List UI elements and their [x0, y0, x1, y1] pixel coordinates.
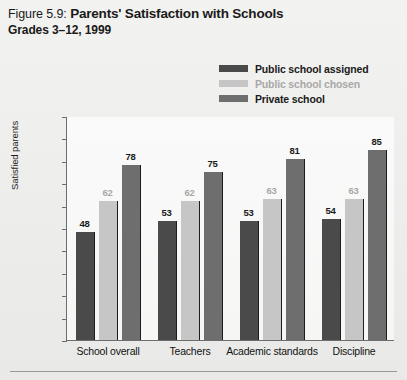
- page-title: Parents' Satisfaction with Schools: [70, 6, 283, 21]
- legend-item-label: Private school: [255, 93, 325, 105]
- x-axis-category-label: Teachers: [169, 345, 210, 357]
- legend-item-private-school: Private school: [219, 92, 399, 105]
- figure-number: Figure 5.9:: [8, 7, 67, 21]
- legend-item-label: Public school chosen: [255, 78, 360, 90]
- figure-title-block: Figure 5.9: Parents' Satisfaction with S…: [8, 6, 403, 38]
- x-axis-category-label: School overall: [76, 345, 139, 357]
- legend-swatch-icon: [219, 95, 248, 102]
- bar: 54: [322, 219, 341, 340]
- bottom-divider: [10, 371, 397, 372]
- bar-value-label: 85: [371, 136, 381, 147]
- bar: 53: [158, 221, 177, 340]
- legend-swatch-icon: [219, 65, 248, 72]
- bar-value-label: 62: [184, 187, 194, 198]
- chart-legend: Public school assigned Public school cho…: [219, 62, 399, 107]
- legend-item-public-school-chosen: Public school chosen: [219, 77, 399, 90]
- y-axis-title: Satisfied parents: [9, 121, 20, 190]
- bar-value-label: 53: [243, 207, 253, 218]
- bar-group: 536275: [149, 117, 231, 340]
- bar-value-label: 54: [325, 205, 335, 216]
- x-axis-category-label: Discipline: [333, 345, 376, 357]
- bar: 63: [263, 199, 282, 340]
- bar-value-label: 62: [102, 187, 112, 198]
- y-axis-tick: [62, 341, 67, 342]
- bar: 75: [204, 172, 223, 340]
- bar: 63: [345, 199, 364, 340]
- bar-value-label: 75: [207, 158, 217, 169]
- bar: 48: [76, 232, 95, 340]
- bar: 53: [240, 221, 259, 340]
- bar-value-label: 53: [161, 207, 171, 218]
- title-line-primary: Figure 5.9: Parents' Satisfaction with S…: [8, 6, 403, 22]
- bar: 62: [181, 201, 200, 340]
- bar-group: 536381: [231, 117, 313, 340]
- bar-group: 546385: [313, 117, 395, 340]
- bar-value-label: 48: [79, 218, 89, 229]
- bar-value-label: 63: [266, 185, 276, 196]
- bar-value-label: 63: [348, 185, 358, 196]
- legend-item-public-school-assigned: Public school assigned: [219, 62, 399, 75]
- bar: 62: [99, 201, 118, 340]
- bar-value-label: 78: [125, 151, 135, 162]
- bar: 81: [286, 159, 305, 340]
- chart-plot-area: 010%20%30%40%50%60%70%80%90%100%486278Sc…: [66, 117, 394, 341]
- figure-subtitle: Grades 3–12, 1999: [8, 23, 403, 38]
- bar-value-label: 81: [289, 145, 299, 156]
- x-axis-category-label: Academic standards: [226, 345, 318, 357]
- bar-group: 486278: [67, 117, 149, 340]
- figure-container: Figure 5.9: Parents' Satisfaction with S…: [0, 0, 407, 380]
- bar: 85: [368, 150, 387, 340]
- bar: 78: [122, 165, 141, 340]
- legend-swatch-icon: [219, 80, 248, 87]
- legend-item-label: Public school assigned: [255, 63, 368, 75]
